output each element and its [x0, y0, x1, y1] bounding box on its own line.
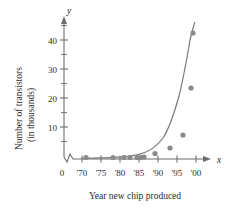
data-point	[83, 155, 88, 160]
data-point	[167, 145, 172, 150]
data-point	[110, 155, 115, 160]
x-axis-title: Year new chip produced	[89, 191, 181, 201]
x-axis-variable-label: x	[216, 155, 222, 165]
data-point	[190, 30, 195, 35]
x-tick-label: '00	[191, 168, 202, 178]
data-point	[188, 85, 193, 90]
origin-label: 0	[60, 168, 65, 178]
y-axis-arrow	[61, 16, 67, 24]
y-tick-label: 30	[48, 65, 58, 75]
y-axis-title-line2: (in thousands)	[26, 88, 36, 142]
y-axis	[60, 16, 68, 152]
x-tick-label: '95	[172, 168, 183, 178]
y-tick-labels: 40 30 20 10 0	[48, 36, 65, 179]
data-point	[180, 132, 185, 137]
y-axis-title: Number of transistors (in thousands)	[0, 0, 44, 180]
y-tick-label: 40	[48, 36, 58, 46]
x-tick-label: '85	[134, 168, 145, 178]
x-tick-labels: '70 '75 '80 '85 '90 '95 '00	[77, 168, 202, 178]
data-point	[152, 151, 157, 156]
x-tick-label: '70	[77, 168, 88, 178]
x-axis-arrow	[203, 156, 211, 162]
x-tick-label: '90	[153, 168, 164, 178]
data-point	[141, 154, 146, 159]
fit-curve	[82, 22, 195, 158]
x-tick-label: '75	[96, 168, 107, 178]
y-tick-label: 20	[48, 94, 58, 104]
x-tick-label: '80	[115, 168, 126, 178]
chart-figure: Number of transistors (in thousands)	[0, 0, 227, 213]
y-axis-title-line1: Number of transistors	[14, 67, 24, 150]
data-point	[121, 155, 126, 160]
data-point	[127, 155, 132, 160]
y-tick-label: 10	[48, 123, 58, 133]
y-axis-variable-label: y	[66, 6, 72, 16]
